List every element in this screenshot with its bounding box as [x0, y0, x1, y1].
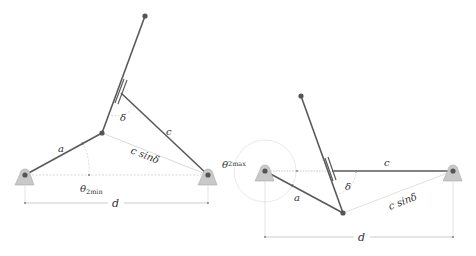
dim-tick-right — [207, 202, 209, 204]
label-a: a — [58, 143, 64, 154]
joint-b — [99, 130, 104, 135]
left-diagram: a c δ c sinδ θ2min d — [15, 13, 217, 210]
link-a — [25, 133, 102, 175]
label-d: d — [112, 197, 119, 210]
theta-2min-arc — [83, 143, 89, 175]
label-c-sin-delta: c sinδ — [129, 145, 161, 166]
label-c: c — [166, 126, 172, 137]
label-c: c — [384, 157, 390, 168]
right-diagram: a c δ c sinδ θ2max d — [222, 93, 462, 244]
link-c — [121, 93, 208, 175]
theta-tick — [88, 174, 90, 176]
coupler-rod — [301, 96, 343, 213]
ground-pivot-left — [255, 165, 274, 181]
label-delta: δ — [345, 181, 351, 192]
joint-top — [142, 13, 147, 18]
dim-tick-left — [24, 202, 26, 204]
theta-tick — [296, 170, 298, 172]
label-d: d — [358, 231, 365, 244]
dim-tick-left — [264, 236, 266, 238]
joint-top — [298, 93, 303, 98]
label-theta-2min: θ2min — [80, 183, 103, 196]
joint-b — [340, 210, 345, 215]
dim-tick-right — [452, 236, 454, 238]
ground-pivot-right — [198, 169, 217, 185]
ground-pivot-right — [443, 165, 462, 181]
label-delta: δ — [120, 112, 126, 123]
label-a: a — [294, 192, 300, 203]
